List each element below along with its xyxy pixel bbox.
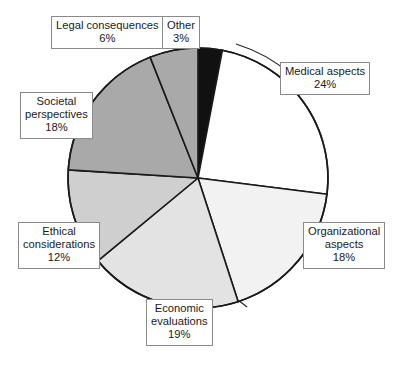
slice-label-text: Economic [151, 302, 208, 315]
slice-label-text: Ethical [23, 225, 95, 238]
slice-label-societal-perspectives[interactable]: Societal perspectives 18% [20, 92, 93, 139]
slice-label-text: Societal [25, 95, 88, 108]
slice-label-text-2: aspects [308, 238, 380, 251]
slice-label-percent: 19% [151, 328, 208, 341]
slice-label-text-2: perspectives [25, 108, 88, 121]
slice-label-percent: 3% [167, 32, 195, 45]
slice-label-text-2: considerations [23, 238, 95, 251]
slice-label-text: Legal consequences [56, 19, 159, 32]
slice-label-economic-evaluations[interactable]: Economic evaluations 19% [146, 299, 213, 346]
slice-label-legal-consequences[interactable]: Legal consequences 6% [51, 16, 164, 49]
slice-label-percent: 24% [285, 78, 365, 91]
slice-label-percent: 18% [25, 121, 88, 134]
slice-label-medical-aspects[interactable]: Medical aspects 24% [280, 62, 370, 95]
pie-chart: Legal consequences 6% Other 3% Medical a… [0, 0, 400, 368]
slice-label-text-2: evaluations [151, 315, 208, 328]
slice-label-percent: 18% [308, 251, 380, 264]
slice-label-text: Organizational [308, 225, 380, 238]
slice-label-text: Medical aspects [285, 65, 365, 78]
slice-label-percent: 6% [56, 32, 159, 45]
slice-label-other[interactable]: Other 3% [162, 16, 200, 49]
slice-label-ethical-considerations[interactable]: Ethical considerations 12% [18, 222, 100, 269]
slice-label-text: Other [167, 19, 195, 32]
slice-label-percent: 12% [23, 251, 95, 264]
slice-label-organizational-aspects[interactable]: Organizational aspects 18% [303, 222, 385, 269]
